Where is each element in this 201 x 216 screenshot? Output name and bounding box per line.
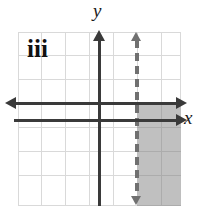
figure-label: iii	[27, 36, 48, 61]
gridline-horizontal	[137, 175, 181, 176]
gridline-horizontal	[137, 127, 181, 128]
arrow-up-icon	[131, 32, 141, 41]
horizontal-boundary-line	[14, 102, 180, 105]
coordinate-plane-figure: y x iii	[0, 0, 201, 216]
x-axis	[14, 119, 180, 122]
gridline-horizontal	[137, 151, 181, 152]
arrow-down-icon	[131, 196, 141, 205]
y-axis	[98, 38, 101, 206]
arrow-left-icon	[5, 97, 16, 109]
x-axis-label: x	[184, 108, 192, 127]
y-axis-label: y	[93, 1, 101, 20]
arrow-up-icon	[93, 30, 105, 41]
gridline-horizontal	[137, 205, 181, 206]
